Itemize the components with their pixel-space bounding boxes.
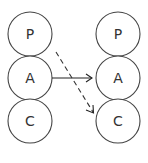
node-right-p: P: [96, 12, 140, 56]
node-right-a: A: [96, 56, 140, 100]
left-column: P A C: [8, 12, 52, 143]
arrow-line-dashed: [56, 52, 93, 112]
node-left-a: A: [8, 56, 52, 100]
node-label: C: [113, 113, 123, 129]
node-label: A: [113, 70, 123, 86]
node-label: P: [26, 26, 34, 42]
node-left-p: P: [8, 12, 52, 56]
right-column: P A C: [96, 12, 140, 143]
node-label: A: [25, 70, 35, 86]
node-label: C: [25, 113, 35, 129]
node-left-c: C: [8, 99, 52, 143]
diagram-canvas: P A C P A C: [0, 0, 148, 163]
node-right-c: C: [96, 99, 140, 143]
edge-dashed-p-to-c: [56, 52, 94, 113]
edge-solid-a-to-a: [52, 74, 92, 82]
node-label: P: [114, 26, 122, 42]
